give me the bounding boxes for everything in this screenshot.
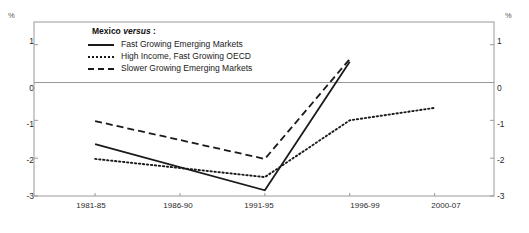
chart-plot-area	[0, 0, 529, 233]
series-line-dotted	[95, 108, 434, 177]
data-series-group	[95, 59, 434, 190]
axis-tick-marks	[34, 45, 494, 196]
series-line-dashed	[95, 59, 350, 159]
series-line-solid	[95, 62, 350, 191]
